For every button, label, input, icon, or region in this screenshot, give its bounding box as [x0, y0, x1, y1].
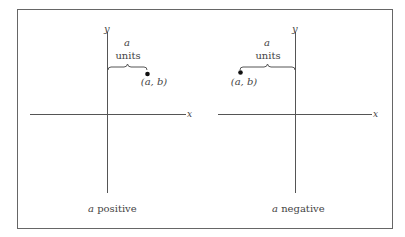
point-label: (a, b)	[141, 76, 168, 87]
point-label: (a, b)	[231, 76, 258, 87]
brace-label-units: units	[115, 50, 140, 61]
panel-right: y x a units (a, b) a negative	[218, 23, 378, 214]
y-axis-label: y	[291, 23, 298, 34]
panel-caption: a negative	[272, 203, 325, 214]
panel-left: y x a units (a, b) a positive	[30, 23, 192, 214]
diagram: y x a units (a, b) a positive y x a unit…	[0, 0, 405, 237]
brace-label-var: a	[124, 37, 130, 48]
x-axis-label: x	[373, 109, 378, 119]
brace-label-var: a	[264, 37, 270, 48]
panel-caption: a positive	[88, 203, 137, 214]
brace-label-units: units	[255, 50, 280, 61]
y-axis-label: y	[103, 23, 110, 34]
point-marker	[238, 70, 243, 75]
x-axis-label: x	[187, 109, 192, 119]
brace	[108, 64, 147, 70]
frame-border	[18, 10, 393, 229]
brace	[240, 64, 295, 70]
